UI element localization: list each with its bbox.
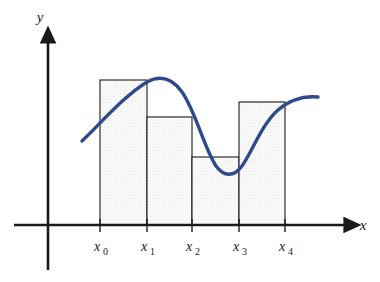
rect-x3-x4 — [239, 102, 285, 225]
tick-label-x4-sub: 4 — [288, 246, 293, 257]
riemann-rectangles — [100, 80, 285, 225]
tick-label-x0-var: x — [93, 239, 101, 254]
tick-label-x1: x 1 — [140, 239, 155, 257]
x-tick-labels: x 0 x 1 x 2 x 3 x 4 — [93, 239, 293, 257]
rect-x1-x2 — [147, 117, 192, 225]
x-axis-label: x — [359, 217, 367, 233]
tick-label-x3-sub: 3 — [242, 246, 247, 257]
tick-label-x1-var: x — [140, 239, 148, 254]
tick-label-x0-sub: 0 — [103, 246, 108, 257]
tick-label-x4: x 4 — [278, 239, 293, 257]
riemann-sum-svg: y x x 0 x 1 x 2 x 3 x 4 — [0, 0, 380, 282]
tick-label-x4-var: x — [278, 239, 286, 254]
tick-label-x2-sub: 2 — [195, 246, 200, 257]
tick-label-x2: x 2 — [185, 239, 200, 257]
tick-label-x2-var: x — [185, 239, 193, 254]
tick-label-x3-var: x — [232, 239, 240, 254]
tick-label-x1-sub: 1 — [150, 246, 155, 257]
tick-label-x3: x 3 — [232, 239, 247, 257]
tick-label-x0: x 0 — [93, 239, 108, 257]
riemann-sum-figure: y x x 0 x 1 x 2 x 3 x 4 — [0, 0, 380, 282]
y-axis-label: y — [35, 9, 44, 25]
